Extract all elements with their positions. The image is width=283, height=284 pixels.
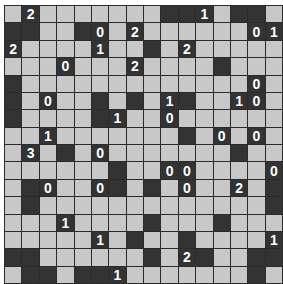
white-cell[interactable] xyxy=(109,93,125,109)
white-cell[interactable] xyxy=(144,110,160,126)
white-cell[interactable] xyxy=(127,267,143,283)
white-cell[interactable] xyxy=(127,110,143,126)
white-cell[interactable] xyxy=(5,58,21,74)
white-cell[interactable] xyxy=(161,215,177,231)
white-cell[interactable] xyxy=(248,162,264,178)
white-cell[interactable] xyxy=(144,6,160,22)
white-cell[interactable] xyxy=(144,23,160,39)
white-cell[interactable] xyxy=(75,249,91,265)
white-cell[interactable] xyxy=(127,162,143,178)
white-cell[interactable] xyxy=(231,215,247,231)
white-cell[interactable] xyxy=(40,76,56,92)
white-cell[interactable] xyxy=(127,76,143,92)
white-cell[interactable] xyxy=(5,215,21,231)
white-cell[interactable] xyxy=(266,145,282,161)
white-cell[interactable] xyxy=(109,249,125,265)
white-cell[interactable] xyxy=(40,232,56,248)
white-cell[interactable] xyxy=(266,41,282,57)
white-cell[interactable] xyxy=(196,110,212,126)
white-cell[interactable] xyxy=(161,58,177,74)
white-cell[interactable] xyxy=(144,232,160,248)
white-cell[interactable] xyxy=(109,58,125,74)
white-cell[interactable] xyxy=(40,162,56,178)
white-cell[interactable] xyxy=(40,215,56,231)
white-cell[interactable] xyxy=(144,145,160,161)
white-cell[interactable] xyxy=(196,41,212,57)
white-cell[interactable] xyxy=(144,162,160,178)
white-cell[interactable] xyxy=(22,128,38,144)
white-cell[interactable] xyxy=(231,249,247,265)
white-cell[interactable] xyxy=(5,180,21,196)
white-cell[interactable] xyxy=(57,249,73,265)
white-cell[interactable] xyxy=(5,145,21,161)
white-cell[interactable] xyxy=(144,76,160,92)
white-cell[interactable] xyxy=(161,41,177,57)
white-cell[interactable] xyxy=(196,145,212,161)
white-cell[interactable] xyxy=(92,162,108,178)
white-cell[interactable] xyxy=(75,145,91,161)
white-cell[interactable] xyxy=(57,180,73,196)
white-cell[interactable] xyxy=(22,232,38,248)
white-cell[interactable] xyxy=(214,249,230,265)
white-cell[interactable] xyxy=(40,23,56,39)
white-cell[interactable] xyxy=(5,232,21,248)
white-cell[interactable] xyxy=(266,267,282,283)
white-cell[interactable] xyxy=(196,267,212,283)
white-cell[interactable] xyxy=(57,197,73,213)
white-cell[interactable] xyxy=(57,110,73,126)
white-cell[interactable] xyxy=(266,6,282,22)
white-cell[interactable] xyxy=(214,180,230,196)
white-cell[interactable] xyxy=(57,267,73,283)
white-cell[interactable] xyxy=(161,267,177,283)
white-cell[interactable] xyxy=(231,232,247,248)
white-cell[interactable] xyxy=(75,232,91,248)
white-cell[interactable] xyxy=(127,215,143,231)
white-cell[interactable] xyxy=(161,249,177,265)
white-cell[interactable] xyxy=(57,41,73,57)
white-cell[interactable] xyxy=(179,76,195,92)
white-cell[interactable] xyxy=(214,197,230,213)
white-cell[interactable] xyxy=(231,76,247,92)
white-cell[interactable] xyxy=(231,162,247,178)
white-cell[interactable] xyxy=(109,145,125,161)
white-cell[interactable] xyxy=(196,215,212,231)
white-cell[interactable] xyxy=(22,162,38,178)
white-cell[interactable] xyxy=(5,128,21,144)
white-cell[interactable] xyxy=(196,162,212,178)
white-cell[interactable] xyxy=(266,93,282,109)
white-cell[interactable] xyxy=(179,145,195,161)
white-cell[interactable] xyxy=(266,58,282,74)
white-cell[interactable] xyxy=(248,145,264,161)
white-cell[interactable] xyxy=(179,215,195,231)
white-cell[interactable] xyxy=(75,58,91,74)
white-cell[interactable] xyxy=(266,215,282,231)
white-cell[interactable] xyxy=(144,128,160,144)
white-cell[interactable] xyxy=(196,180,212,196)
white-cell[interactable] xyxy=(92,58,108,74)
white-cell[interactable] xyxy=(75,215,91,231)
white-cell[interactable] xyxy=(248,110,264,126)
white-cell[interactable] xyxy=(161,232,177,248)
white-cell[interactable] xyxy=(57,162,73,178)
white-cell[interactable] xyxy=(75,128,91,144)
white-cell[interactable] xyxy=(179,267,195,283)
white-cell[interactable] xyxy=(127,128,143,144)
white-cell[interactable] xyxy=(22,76,38,92)
white-cell[interactable] xyxy=(248,197,264,213)
white-cell[interactable] xyxy=(57,93,73,109)
white-cell[interactable] xyxy=(22,110,38,126)
white-cell[interactable] xyxy=(40,6,56,22)
white-cell[interactable] xyxy=(214,232,230,248)
white-cell[interactable] xyxy=(40,41,56,57)
white-cell[interactable] xyxy=(179,58,195,74)
white-cell[interactable] xyxy=(266,128,282,144)
white-cell[interactable] xyxy=(57,128,73,144)
white-cell[interactable] xyxy=(22,215,38,231)
white-cell[interactable] xyxy=(196,58,212,74)
white-cell[interactable] xyxy=(179,197,195,213)
white-cell[interactable] xyxy=(75,180,91,196)
white-cell[interactable] xyxy=(40,197,56,213)
white-cell[interactable] xyxy=(231,128,247,144)
white-cell[interactable] xyxy=(144,197,160,213)
white-cell[interactable] xyxy=(231,41,247,57)
